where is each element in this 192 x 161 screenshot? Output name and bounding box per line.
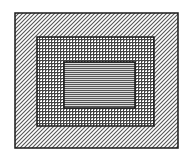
diagram-svg [0, 0, 192, 161]
inner-rectangle [64, 62, 135, 108]
nested-rectangles-diagram [0, 0, 192, 161]
